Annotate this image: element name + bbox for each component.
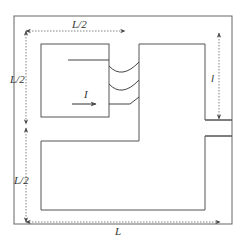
current-label: I — [83, 88, 89, 100]
coil: I — [68, 60, 139, 104]
coil-turn-2 — [109, 80, 139, 90]
dim-right-gap-length-label: l — [211, 72, 214, 84]
dim-bottom-width-label: L — [114, 225, 121, 237]
core-window-upper-left — [41, 44, 109, 117]
dim-left-upper-height-label: L/2 — [9, 73, 25, 85]
dim-left-lower-height-label: L/2 — [13, 174, 29, 186]
core-window-upper-right — [139, 44, 232, 140]
dim-top-width-label: L/2 — [71, 18, 87, 30]
magnetic-core-diagram: I L/2 L/2 L/2 L l — [0, 0, 245, 251]
core-outer-boundary — [14, 16, 232, 224]
coil-turn-3 — [109, 97, 139, 104]
core-window-lower — [41, 136, 232, 210]
coil-turn-1 — [109, 62, 139, 72]
